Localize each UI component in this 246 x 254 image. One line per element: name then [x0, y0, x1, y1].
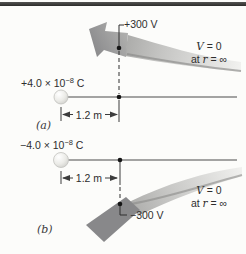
charge-label-b-exponent: −8 — [64, 138, 73, 147]
v-zero-note-b: V = 0at r = ∞ — [181, 184, 237, 210]
distance-label-b: 1.2 m — [66, 172, 112, 184]
figure-canvas: +300 V +4.0 × 10−8 C V = 0at r = ∞ 1.2 m… — [0, 0, 246, 254]
at-word-a: at — [191, 53, 203, 65]
negative-charge-sphere — [54, 153, 69, 168]
charge-label-a-base: +4.0 × 10 — [21, 77, 65, 89]
positive-charge-sphere — [54, 90, 68, 104]
point-marker-ribbon-b — [118, 202, 123, 207]
charge-label-b-unit: C — [73, 139, 84, 151]
v-zero-note-a: V = 0at r = ∞ — [181, 40, 237, 66]
r-value-b: = ∞ — [208, 197, 227, 209]
charge-label-a: +4.0 × 10−8 C — [21, 77, 84, 89]
at-word-b: at — [191, 197, 203, 209]
potential-label-a: +300 V — [124, 18, 158, 30]
v-value-b: = 0 — [204, 184, 222, 196]
v-symbol-a: V — [196, 40, 204, 52]
r-value-a: = ∞ — [208, 53, 227, 65]
potential-label-b: −300 V — [130, 209, 164, 221]
panel-label-b: (b) — [37, 223, 53, 236]
charge-label-a-exponent: −8 — [65, 76, 74, 85]
v-symbol-b: V — [196, 184, 204, 196]
charge-label-a-unit: C — [74, 77, 85, 89]
point-marker-axis-a — [117, 95, 122, 100]
point-marker-axis-b — [118, 158, 123, 163]
charge-label-b-base: −4.0 × 10 — [20, 139, 64, 151]
ribbon-a-arrowhead-icon — [89, 22, 128, 57]
charge-label-b: −4.0 × 10−8 C — [20, 139, 83, 151]
point-marker-ribbon-a — [117, 46, 122, 51]
panel-label-a: (a) — [36, 119, 51, 132]
v-value-a: = 0 — [204, 40, 222, 52]
distance-label-a: 1.2 m — [66, 109, 112, 121]
